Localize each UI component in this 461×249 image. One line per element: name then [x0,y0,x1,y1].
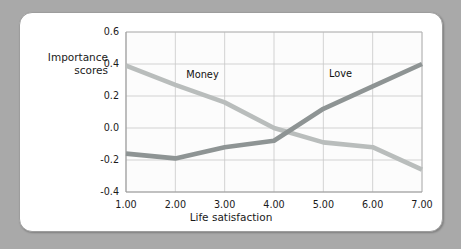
y-tick-label: 0.0 [104,122,119,133]
y-tick-label: -0.2 [100,154,119,165]
series-label-love: Love [329,68,352,79]
y-tick-label: 0.2 [104,90,119,101]
plot-area: 0.60.40.20.0-0.2-0.4 1.002.003.004.005.0… [20,13,444,233]
x-tick-label: 1.00 [115,199,136,210]
y-tick-label: 0.4 [104,58,119,69]
chart-card: Importance scores 0.60.40.20.0-0.2-0.4 1… [19,12,443,232]
y-tick-label: -0.4 [100,186,119,197]
x-tick-label: 3.00 [214,199,235,210]
x-axis-title: Life satisfaction [20,211,442,223]
x-tick-labels: 1.002.003.004.005.006.007.00 [115,199,432,210]
line-chart-svg: 0.60.40.20.0-0.2-0.4 1.002.003.004.005.0… [20,13,444,233]
x-tick-label: 2.00 [165,199,186,210]
y-tick-label: 0.6 [104,26,119,37]
series-label-money: Money [186,69,219,80]
x-tick-label: 5.00 [313,199,334,210]
x-tick-label: 6.00 [362,199,383,210]
figure-root: Importance scores 0.60.40.20.0-0.2-0.4 1… [0,0,461,249]
y-tick-labels: 0.60.40.20.0-0.2-0.4 [100,26,119,197]
x-tick-label: 4.00 [263,199,284,210]
x-tick-label: 7.00 [411,199,432,210]
